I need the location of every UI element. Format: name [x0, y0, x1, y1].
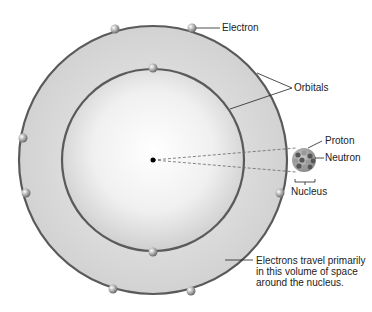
center-dot — [151, 158, 156, 163]
label-volume: Electrons travel primarily in this volum… — [256, 255, 365, 288]
label-volume-line3: around the nucleus. — [256, 277, 365, 288]
nucleus — [292, 148, 316, 172]
label-electron: Electron — [222, 22, 259, 33]
label-volume-line2: in this volume of space — [256, 266, 365, 277]
label-neutron: Neutron — [325, 152, 361, 163]
label-orbitals: Orbitals — [294, 82, 328, 93]
label-proton: Proton — [325, 135, 354, 146]
label-nucleus: Nucleus — [291, 186, 327, 197]
label-volume-line1: Electrons travel primarily — [256, 255, 365, 266]
